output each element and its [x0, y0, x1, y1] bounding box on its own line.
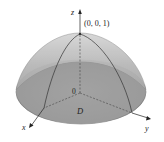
y-axis-arrow-icon	[146, 116, 151, 121]
z-axis-label: z	[70, 8, 75, 17]
apex-point	[79, 33, 81, 35]
region-label: D	[76, 106, 84, 116]
paraboloid-diagram: z (0, 0, 1) 0 D x y	[0, 0, 164, 142]
origin-label: 0	[72, 87, 76, 96]
z-axis-arrow-icon	[78, 9, 82, 14]
y-axis-label: y	[144, 124, 149, 133]
x-axis-label: x	[21, 123, 26, 132]
y-axis	[132, 113, 148, 118]
apex-label: (0, 0, 1)	[84, 19, 110, 28]
